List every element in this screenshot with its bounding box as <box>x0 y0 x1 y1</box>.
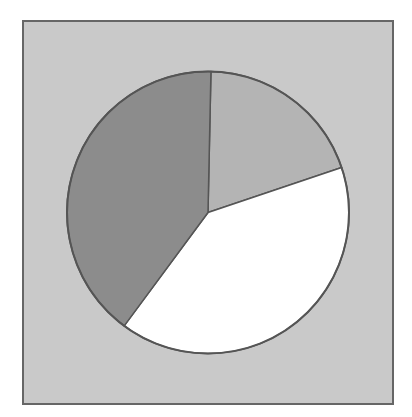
pie-chart <box>0 0 412 417</box>
chart-canvas: Slice A: 19.5Slice B: 40.3Slice C: 40.2 <box>0 0 412 417</box>
